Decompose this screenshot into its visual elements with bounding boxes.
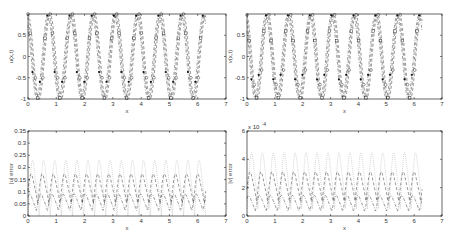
x-tick-label: 2 — [83, 218, 87, 224]
x-tick-label: 7 — [440, 218, 444, 224]
y-tick-label: 0.35 — [14, 128, 26, 134]
dot-marker — [157, 15, 159, 17]
square-marker — [29, 32, 32, 35]
dot-marker — [68, 15, 70, 17]
x-tick-label: 7 — [224, 218, 228, 224]
dot-marker — [374, 14, 376, 16]
x-tick-label: 6 — [412, 101, 416, 107]
y-exponent-power: -4 — [262, 122, 266, 127]
panel-top-right-v: 01234567-1-0.500.5xv(x,t) — [227, 13, 444, 114]
circle-marker — [175, 76, 178, 79]
x-tick-label: 4 — [139, 218, 143, 224]
dot-marker — [403, 78, 405, 80]
x-tick-label: 3 — [111, 101, 115, 107]
plot-area — [246, 13, 422, 99]
y-axis-label: u(x,t) — [8, 50, 14, 64]
square-marker — [118, 32, 121, 35]
dot-marker — [352, 14, 354, 16]
y-tick-label: 0.25 — [14, 152, 26, 158]
dot-marker — [172, 81, 174, 83]
series-line-0 — [28, 160, 206, 216]
dot-marker — [265, 14, 267, 16]
square-marker — [51, 32, 54, 35]
square-marker — [262, 30, 265, 33]
dot-marker — [345, 74, 347, 76]
dot-marker — [389, 74, 391, 76]
y-tick-label: 0.15 — [14, 177, 26, 183]
series-line-0 — [247, 14, 422, 99]
y-tick-label: 0.2 — [18, 164, 27, 170]
square-marker — [184, 32, 187, 35]
square-marker — [140, 32, 143, 35]
dot-marker — [150, 81, 152, 83]
x-tick-label: 5 — [168, 218, 172, 224]
series-line-2 — [28, 194, 206, 210]
square-marker — [73, 32, 76, 35]
square-marker — [177, 37, 180, 40]
square-marker — [248, 39, 251, 42]
dot-marker — [113, 15, 115, 17]
x-tick-label: 6 — [412, 218, 416, 224]
dot-marker — [91, 15, 93, 17]
dot-marker — [294, 78, 296, 80]
dot-marker — [135, 15, 137, 17]
dot-marker — [396, 14, 398, 16]
y-tick-label: 0 — [23, 54, 27, 60]
plot-area — [28, 160, 206, 216]
square-marker — [328, 30, 331, 33]
x-tick-label: 4 — [139, 101, 143, 107]
x-tick-label: 1 — [273, 218, 277, 224]
x-tick-label: 7 — [224, 101, 228, 107]
dot-marker — [54, 71, 56, 73]
square-marker — [284, 30, 287, 33]
y-tick-label: -0.5 — [16, 75, 27, 81]
series-line-2 — [28, 15, 206, 97]
x-tick-label: 1 — [55, 218, 59, 224]
y-tick-label: 0.05 — [14, 201, 26, 207]
dot-marker — [250, 78, 252, 80]
dot-marker — [194, 81, 196, 83]
dot-marker — [301, 74, 303, 76]
circle-marker — [326, 69, 329, 72]
x-tick-label: 0 — [26, 101, 30, 107]
circle-marker — [348, 69, 351, 72]
x-tick-label: 3 — [111, 218, 115, 224]
dot-marker — [105, 81, 107, 83]
dot-marker — [202, 15, 204, 17]
x-tick-label: 2 — [83, 101, 87, 107]
plot-area — [247, 153, 422, 211]
x-axis-label: x — [126, 225, 129, 231]
y-tick-label: -0.5 — [235, 75, 246, 81]
figure: 01234567-1-0.500.5xu(x,t) 01234567-1-0.5… — [0, 0, 455, 241]
y-exponent-label: x 10 — [248, 124, 260, 130]
circle-marker — [253, 83, 256, 86]
square-marker — [394, 30, 397, 33]
circle-marker — [41, 76, 44, 79]
dot-marker — [61, 81, 63, 83]
y-tick-label: 0.1 — [18, 189, 27, 195]
dot-marker — [31, 71, 33, 73]
square-marker — [401, 39, 404, 42]
square-marker — [292, 39, 295, 42]
dot-marker — [165, 71, 167, 73]
x-tick-label: 6 — [196, 218, 200, 224]
dot-marker — [39, 81, 41, 83]
square-marker — [44, 37, 47, 40]
x-tick-label: 7 — [440, 101, 444, 107]
y-axis-label: |v| error — [227, 163, 233, 183]
x-tick-label: 5 — [168, 101, 172, 107]
axes-frame — [28, 131, 226, 216]
series-line-2 — [247, 15, 422, 97]
circle-marker — [384, 83, 387, 86]
y-tick-label: 4 — [242, 156, 246, 162]
y-tick-label: -1 — [240, 96, 246, 102]
dot-marker — [128, 81, 130, 83]
panel-top-left-u: 01234567-1-0.500.5xu(x,t) — [8, 13, 228, 114]
square-marker — [162, 32, 165, 35]
x-axis-label: x — [126, 108, 129, 114]
y-tick-label: 6 — [242, 128, 246, 134]
x-tick-label: 6 — [196, 101, 200, 107]
y-tick-label: -1 — [21, 96, 27, 102]
panel-bottom-left-u-error: 0123456700.050.10.150.20.250.30.35x|u| e… — [8, 128, 228, 231]
circle-marker — [101, 76, 104, 79]
